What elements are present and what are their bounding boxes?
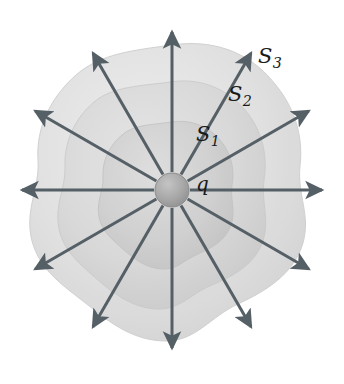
charge-label-q: q: [196, 174, 209, 194]
surface-label-s3: S3: [258, 46, 282, 70]
surface-label-s1: S1: [196, 124, 220, 148]
surface-label-s2: S2: [228, 84, 252, 108]
point-charge-sphere: [155, 173, 189, 207]
diagram-svg: [0, 0, 344, 384]
figure-canvas: S3 S2 S1 q: [0, 0, 344, 384]
